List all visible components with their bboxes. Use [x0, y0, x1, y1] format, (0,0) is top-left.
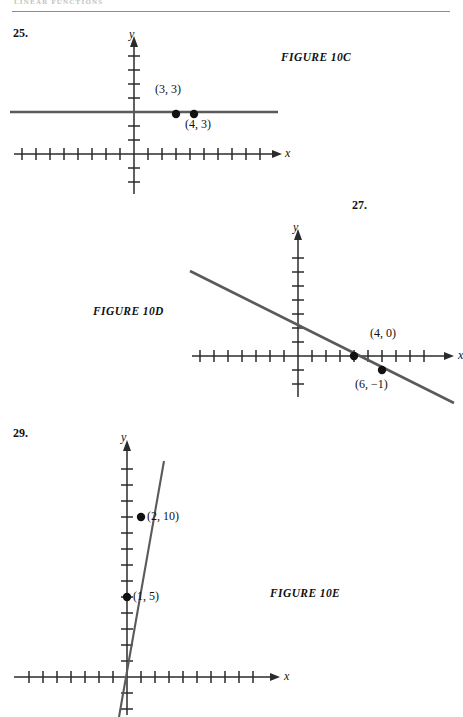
x-axis-letter-10e: x — [284, 669, 289, 684]
y-axis-10d — [292, 229, 304, 397]
point-label-6-neg1: (6, −1) — [355, 377, 388, 392]
graph-svg-10d — [182, 215, 462, 400]
data-point-1-5 — [123, 593, 131, 601]
point-label-4-0: (4, 0) — [370, 326, 396, 341]
data-point-2-10 — [137, 513, 145, 521]
problem-number-27: 27. — [352, 198, 367, 213]
data-point-3-3 — [172, 110, 180, 118]
running-head: LINEAR FUNCTIONS — [14, 0, 103, 6]
figure-caption-10d: FIGURE 10D — [93, 305, 164, 317]
plot-line-10d — [190, 271, 454, 403]
y-axis-letter-10c: y — [129, 27, 134, 42]
graph-svg-10e — [0, 425, 300, 717]
graph-figure-10d: y x (4, 0) (6, −1) — [182, 215, 462, 400]
y-axis-letter-10e: y — [121, 430, 126, 445]
x-axis-10e — [14, 671, 280, 683]
x-axis-letter-10d: x — [458, 348, 463, 363]
point-label-1-5: (1, 5) — [133, 589, 159, 604]
graph-figure-10c: y x (3, 3) (4, 3) — [0, 22, 300, 192]
graph-figure-10e: y x (2, 10) (1, 5) — [0, 425, 300, 717]
point-label-4-3: (4, 3) — [185, 117, 211, 132]
x-axis-letter-10c: x — [285, 146, 290, 161]
x-axis-10c — [14, 148, 282, 160]
point-label-2-10: (2, 10) — [147, 509, 179, 524]
data-point-6-neg1 — [378, 366, 386, 374]
data-point-4-0 — [350, 352, 358, 360]
header-rule — [12, 11, 450, 12]
x-axis-10d — [192, 350, 454, 362]
point-label-3-3: (3, 3) — [155, 82, 181, 97]
y-axis-10c — [128, 36, 140, 194]
graph-svg-10c — [0, 22, 300, 197]
y-axis-letter-10d: y — [293, 220, 298, 235]
